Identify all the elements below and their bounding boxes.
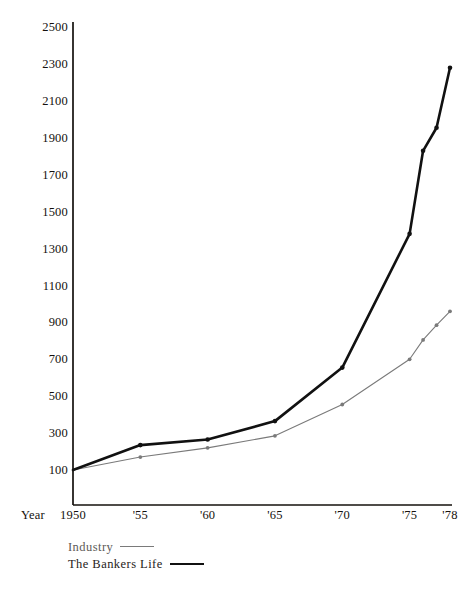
data-point-marker xyxy=(340,403,344,407)
data-point-marker xyxy=(206,446,210,450)
data-point-marker xyxy=(408,357,412,361)
chart-figure: Percent of Base Year 1950 10030050070090… xyxy=(0,0,476,591)
legend-line-swatch xyxy=(120,546,154,547)
data-point-marker xyxy=(435,323,439,327)
data-point-marker xyxy=(421,338,425,342)
chart-legend: IndustryThe Bankers Life xyxy=(68,538,204,572)
y-tick-label: 1300 xyxy=(20,243,68,256)
x-tick-label: 1950 xyxy=(60,509,86,522)
x-tick-label: '65 xyxy=(267,509,282,522)
y-tick-label: 500 xyxy=(20,390,68,403)
x-tick-label: '78 xyxy=(442,509,457,522)
legend-item: Industry xyxy=(68,538,204,555)
y-axis-tick-labels: 1003005007009001100130015001700190021002… xyxy=(16,0,68,591)
x-tick-label: '70 xyxy=(335,509,350,522)
y-tick-label: 2500 xyxy=(20,21,68,34)
data-point-marker xyxy=(205,437,210,442)
series-layer xyxy=(73,65,452,470)
data-point-marker xyxy=(340,365,345,370)
x-tick-label: '75 xyxy=(402,509,417,522)
legend-label: The Bankers Life xyxy=(68,556,163,572)
data-point-marker xyxy=(273,434,277,438)
series-industry xyxy=(73,309,452,470)
series-line xyxy=(73,311,450,470)
y-tick-label: 2100 xyxy=(20,95,68,108)
x-tick-label: '55 xyxy=(133,509,148,522)
legend-item: The Bankers Life xyxy=(68,555,204,572)
data-point-marker xyxy=(273,419,278,424)
data-point-marker xyxy=(448,65,453,70)
y-tick-label: 2300 xyxy=(20,58,68,71)
legend-label: Industry xyxy=(68,539,113,555)
data-point-marker xyxy=(421,149,426,154)
y-tick-label: 900 xyxy=(20,316,68,329)
legend-line-swatch xyxy=(170,563,204,565)
y-tick-label: 100 xyxy=(20,464,68,477)
data-point-marker xyxy=(138,455,142,459)
y-tick-label: 300 xyxy=(20,427,68,440)
x-axis-title: Year xyxy=(21,509,45,522)
plot-area xyxy=(0,0,476,591)
series-line xyxy=(73,68,450,470)
y-tick-label: 1700 xyxy=(20,169,68,182)
y-tick-label: 1100 xyxy=(20,280,68,293)
series-the-bankers-life xyxy=(73,65,452,470)
data-point-marker xyxy=(434,125,439,130)
data-point-marker xyxy=(138,443,143,448)
y-tick-label: 700 xyxy=(20,353,68,366)
y-tick-label: 1500 xyxy=(20,206,68,219)
data-point-marker xyxy=(448,309,452,313)
data-point-marker xyxy=(407,232,412,237)
y-tick-label: 1900 xyxy=(20,132,68,145)
x-tick-label: '60 xyxy=(200,509,215,522)
